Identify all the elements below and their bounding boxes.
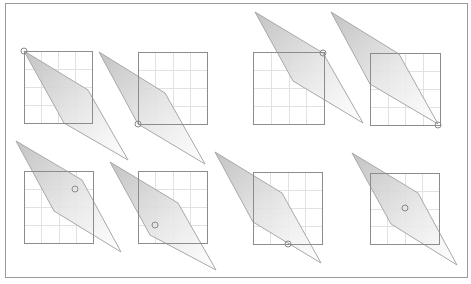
panel-group — [16, 12, 457, 270]
panel-8 — [352, 153, 457, 265]
parallelogram-shape — [110, 162, 216, 270]
parallelogram-shape — [16, 141, 121, 252]
diagram-canvas — [0, 0, 471, 284]
panel-6 — [110, 162, 216, 270]
outer-frame — [6, 4, 468, 278]
panel-5 — [16, 141, 121, 252]
parallelogram-shape — [352, 153, 457, 265]
panel-7 — [215, 152, 323, 263]
